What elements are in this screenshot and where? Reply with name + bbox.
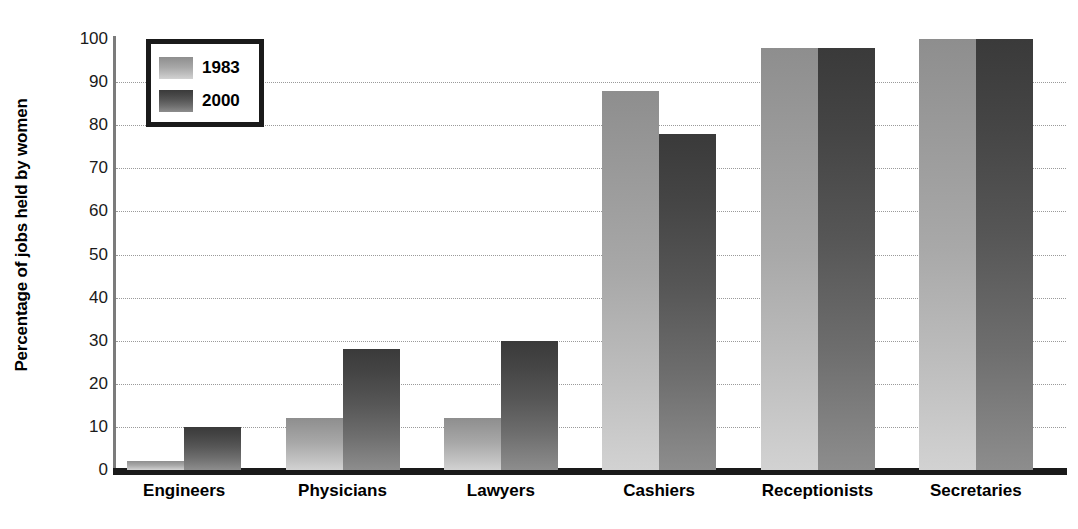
x-category-label: Physicians bbox=[256, 481, 430, 501]
y-tick-label: 80 bbox=[62, 115, 108, 135]
legend-item: 1983 bbox=[159, 51, 253, 84]
y-tick-label: 10 bbox=[62, 417, 108, 437]
y-tick-label: 40 bbox=[62, 288, 108, 308]
y-tick-label: 30 bbox=[62, 331, 108, 351]
bar-receptionists-2000 bbox=[818, 48, 875, 470]
legend: 1983 2000 bbox=[146, 39, 264, 127]
bar-physicians-2000 bbox=[343, 349, 400, 470]
bar-secretaries-1983 bbox=[919, 39, 976, 470]
y-tick-label: 0 bbox=[62, 460, 108, 480]
x-category-label: Engineers bbox=[97, 481, 271, 501]
legend-swatch-1983 bbox=[159, 57, 193, 79]
legend-label-2000: 2000 bbox=[202, 92, 240, 109]
legend-item: 2000 bbox=[159, 84, 253, 117]
y-axis-title-text: Percentage of jobs held by women bbox=[12, 98, 32, 371]
y-tick-label: 90 bbox=[62, 72, 108, 92]
y-tick-label: 60 bbox=[62, 201, 108, 221]
y-tick-label: 100 bbox=[62, 29, 108, 49]
y-axis-tick-labels: 1009080706050403020100 bbox=[52, 39, 108, 470]
bar-group bbox=[444, 39, 558, 470]
bar-lawyers-2000 bbox=[501, 341, 558, 470]
x-category-label: Cashiers bbox=[572, 481, 746, 501]
bar-cashiers-2000 bbox=[659, 134, 716, 470]
x-category-label: Secretaries bbox=[889, 481, 1063, 501]
x-category-label: Receptionists bbox=[731, 481, 905, 501]
y-axis-title: Percentage of jobs held by women bbox=[0, 0, 44, 470]
bar-receptionists-1983 bbox=[761, 48, 818, 470]
bar-physicians-1983 bbox=[286, 418, 343, 470]
bar-group bbox=[602, 39, 716, 470]
bar-group bbox=[919, 39, 1033, 470]
y-tick-label: 20 bbox=[62, 374, 108, 394]
bar-engineers-1983 bbox=[127, 461, 184, 470]
bar-engineers-2000 bbox=[184, 427, 241, 470]
bar-cashiers-1983 bbox=[602, 91, 659, 470]
bar-chart: Percentage of jobs held by women 1009080… bbox=[0, 0, 1078, 529]
legend-swatch-2000 bbox=[159, 90, 193, 112]
bar-group bbox=[286, 39, 400, 470]
x-axis-category-labels: EngineersPhysiciansLawyersCashiersRecept… bbox=[116, 481, 1066, 511]
y-tick-label: 70 bbox=[62, 158, 108, 178]
bar-secretaries-2000 bbox=[976, 39, 1033, 470]
y-tick-label: 50 bbox=[62, 245, 108, 265]
x-category-label: Lawyers bbox=[414, 481, 588, 501]
bar-group bbox=[761, 39, 875, 470]
legend-label-1983: 1983 bbox=[202, 59, 240, 76]
bar-lawyers-1983 bbox=[444, 418, 501, 470]
